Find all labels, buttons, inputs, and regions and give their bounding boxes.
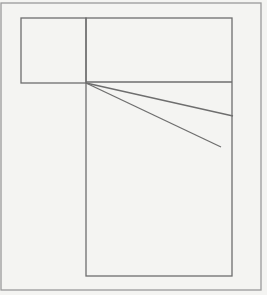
diagram-background [0,0,267,295]
line-diagram [0,0,267,295]
